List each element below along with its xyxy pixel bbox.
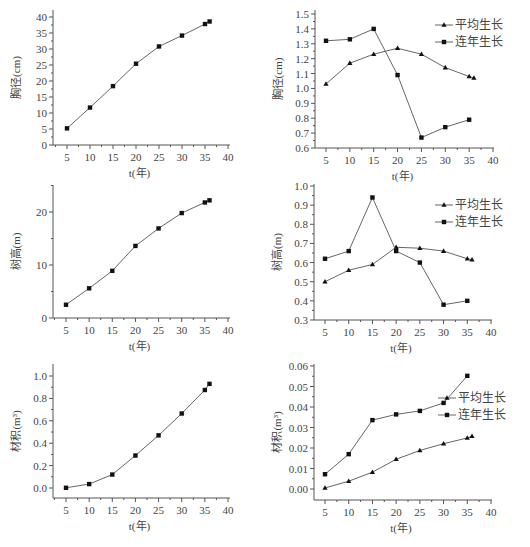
square-marker bbox=[134, 62, 138, 66]
y-tick-label: 0.4 bbox=[294, 295, 308, 307]
y-tick-label: 0 bbox=[42, 139, 48, 151]
y-tick-label: 10 bbox=[36, 259, 48, 271]
square-marker bbox=[394, 412, 398, 416]
panel-height-total: 51015202530354001020t(年)树高(m) bbox=[9, 185, 234, 353]
x-tick-label: 5 bbox=[64, 151, 70, 163]
y-tick-label: 1.0 bbox=[295, 82, 309, 94]
x-tick-label: 20 bbox=[131, 151, 143, 163]
y-tick-label: 0.8 bbox=[295, 112, 309, 124]
legend-square-icon bbox=[442, 220, 446, 224]
x-tick-label: 30 bbox=[177, 151, 189, 163]
square-marker bbox=[64, 303, 68, 307]
series-line bbox=[67, 21, 210, 128]
y-tick-label: 0.7 bbox=[295, 127, 309, 139]
square-marker bbox=[64, 486, 68, 490]
x-tick-label: 20 bbox=[391, 506, 403, 518]
y-tick-label: 0.04 bbox=[289, 401, 309, 413]
square-marker bbox=[203, 22, 207, 26]
legend-label: 平均生长 bbox=[455, 198, 503, 212]
legend-label: 平均生长 bbox=[455, 18, 503, 32]
x-tick-label: 40 bbox=[486, 506, 498, 518]
x-tick-label: 30 bbox=[176, 324, 188, 336]
square-marker bbox=[180, 33, 184, 37]
x-tick-label: 10 bbox=[344, 154, 356, 166]
square-marker bbox=[133, 244, 137, 248]
x-axis-title: t(年) bbox=[390, 521, 412, 535]
square-marker bbox=[443, 125, 447, 129]
series-line bbox=[66, 384, 209, 488]
square-marker bbox=[65, 126, 69, 130]
square-marker bbox=[156, 226, 160, 230]
x-tick-label: 40 bbox=[223, 151, 235, 163]
y-tick-label: 0.9 bbox=[295, 97, 309, 109]
y-tick-label: 0.5 bbox=[294, 276, 308, 288]
x-tick-label: 40 bbox=[488, 154, 500, 166]
square-marker bbox=[347, 452, 351, 456]
square-marker bbox=[156, 433, 160, 437]
square-marker bbox=[348, 37, 352, 41]
y-tick-label: 0.01 bbox=[289, 463, 308, 475]
square-marker bbox=[324, 39, 328, 43]
x-tick-label: 40 bbox=[223, 324, 235, 336]
legend-label: 平均生长 bbox=[458, 391, 506, 405]
x-tick-label: 15 bbox=[367, 326, 379, 338]
square-marker bbox=[419, 135, 423, 139]
y-tick-label: 0.6 bbox=[294, 257, 308, 269]
x-tick-label: 40 bbox=[486, 326, 498, 338]
x-tick-label: 5 bbox=[322, 326, 328, 338]
x-tick-label: 20 bbox=[130, 504, 142, 516]
x-axis-title: t(年) bbox=[390, 341, 412, 355]
x-tick-label: 25 bbox=[414, 506, 426, 518]
square-marker bbox=[370, 418, 374, 422]
x-tick-label: 5 bbox=[323, 154, 329, 166]
x-tick-label: 5 bbox=[322, 506, 328, 518]
square-marker bbox=[418, 409, 422, 413]
square-marker bbox=[203, 200, 207, 204]
square-marker bbox=[323, 472, 327, 476]
x-tick-label: 25 bbox=[153, 324, 165, 336]
triangle-marker bbox=[370, 262, 375, 267]
y-tick-label: 0.06 bbox=[289, 360, 309, 372]
x-tick-label: 25 bbox=[153, 504, 165, 516]
y-tick-label: 0.00 bbox=[289, 483, 309, 495]
x-axis-title: t(年) bbox=[129, 339, 151, 353]
square-marker bbox=[157, 44, 161, 48]
x-tick-label: 10 bbox=[343, 506, 355, 518]
x-tick-label: 30 bbox=[438, 326, 450, 338]
y-tick-label: 0.6 bbox=[33, 415, 47, 427]
x-tick-label: 40 bbox=[223, 504, 235, 516]
square-marker bbox=[180, 211, 184, 215]
x-tick-label: 25 bbox=[414, 326, 426, 338]
panel-height-growth: 5101520253035400.30.40.50.60.70.80.91.0t… bbox=[270, 180, 503, 355]
square-marker bbox=[110, 269, 114, 273]
x-tick-label: 20 bbox=[130, 324, 142, 336]
x-tick-label: 25 bbox=[416, 154, 428, 166]
y-tick-label: 0.7 bbox=[294, 237, 308, 249]
square-marker bbox=[465, 374, 469, 378]
x-tick-label: 5 bbox=[63, 324, 69, 336]
y-tick-label: 0.02 bbox=[289, 442, 308, 454]
y-tick-label: 5 bbox=[42, 123, 48, 135]
y-tick-label: 0.05 bbox=[289, 381, 309, 393]
square-marker bbox=[207, 19, 211, 23]
x-axis-title: t(年) bbox=[129, 519, 151, 533]
panel-volume-total: 5101520253035400.00.20.40.60.81.0t(年)材积(… bbox=[9, 364, 234, 533]
x-tick-label: 35 bbox=[462, 506, 474, 518]
x-tick-label: 15 bbox=[108, 151, 120, 163]
panel-dbh-growth: 5101520253035400.60.70.80.91.01.11.21.31… bbox=[271, 8, 503, 183]
square-marker bbox=[87, 286, 91, 290]
x-tick-label: 35 bbox=[464, 154, 476, 166]
y-tick-label: 1.0 bbox=[294, 180, 308, 192]
x-tick-label: 30 bbox=[176, 504, 188, 516]
x-tick-label: 10 bbox=[84, 324, 96, 336]
square-marker bbox=[110, 472, 114, 476]
y-tick-label: 0.0 bbox=[33, 482, 47, 494]
square-marker bbox=[180, 411, 184, 415]
legend-label: 连年生长 bbox=[455, 214, 503, 229]
square-marker bbox=[203, 388, 207, 392]
x-tick-label: 35 bbox=[200, 151, 212, 163]
series-line bbox=[326, 48, 474, 84]
x-tick-label: 35 bbox=[199, 504, 211, 516]
y-tick-label: 1.3 bbox=[295, 38, 309, 50]
series-line bbox=[326, 29, 469, 138]
